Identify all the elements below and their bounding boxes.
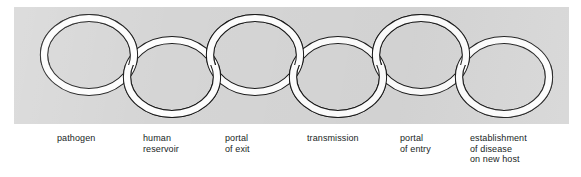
chain-links-overlap-top xyxy=(44,18,466,92)
chain-link-labels: pathogen human reservoir portal of exit … xyxy=(0,124,581,177)
chain-link-label-portal-of-exit: portal of exit xyxy=(225,133,250,154)
chain-diagram: .tube-outer { fill: none; stroke: #1a1a1… xyxy=(14,7,569,124)
chain-links-overlap-bottom xyxy=(127,40,549,114)
artwork-panel: .tube-outer { fill: none; stroke: #1a1a1… xyxy=(14,7,569,124)
chain-link-label-pathogen: pathogen xyxy=(57,133,95,144)
chain-of-infection-figure: .tube-outer { fill: none; stroke: #1a1a1… xyxy=(0,0,581,177)
chain-link-label-transmission: transmission xyxy=(307,133,359,144)
chain-link-label-human-reservoir: human reservoir xyxy=(143,133,179,154)
chain-link-label-establishment: establishment of disease on new host xyxy=(470,133,527,165)
chain-link-label-portal-of-entry: portal of entry xyxy=(400,133,431,154)
